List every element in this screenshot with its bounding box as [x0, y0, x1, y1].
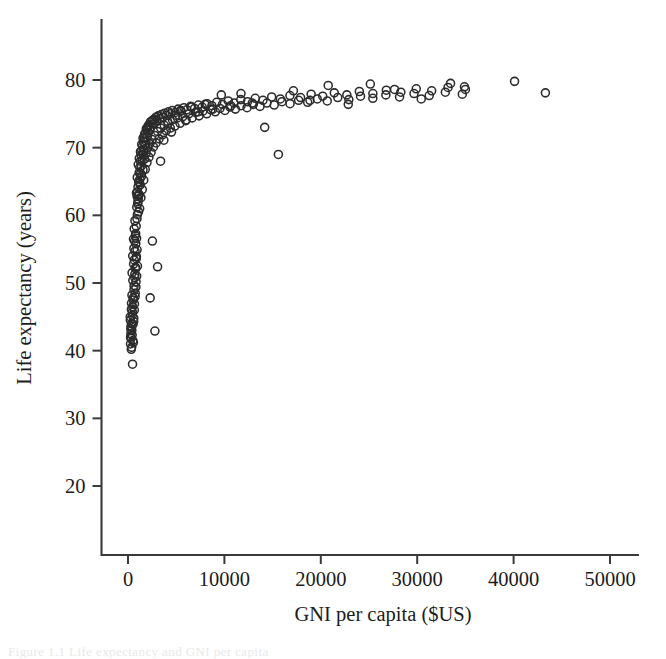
x-tick-label: 0: [123, 568, 133, 590]
x-tick-label: 20000: [295, 568, 346, 590]
x-tick-label: 50000: [584, 568, 635, 590]
data-point: [278, 98, 286, 106]
x-tick-label: 10000: [199, 568, 250, 590]
y-tick-label: 40: [65, 340, 86, 362]
data-point: [324, 81, 332, 89]
y-axis-tick-labels: 20304050607080: [65, 69, 86, 497]
plot-svg: 01000020000300004000050000 2030405060708…: [0, 0, 666, 659]
x-tick-label: 40000: [488, 568, 539, 590]
x-axis-label: GNI per capita ($US): [294, 603, 471, 626]
x-axis-ticks: [128, 555, 610, 564]
data-point: [357, 92, 365, 100]
data-point: [154, 263, 162, 271]
y-axis-label: Life expectancy (years): [13, 191, 36, 385]
data-point: [417, 95, 425, 103]
data-point: [146, 294, 154, 302]
data-point: [160, 136, 168, 144]
data-point: [304, 98, 312, 106]
y-tick-label: 20: [65, 475, 86, 497]
y-tick-label: 70: [65, 137, 86, 159]
data-point: [148, 237, 156, 245]
caption-fragment: Figure 1.1 Life expectancy and GNI per c…: [8, 644, 428, 658]
data-point: [274, 150, 282, 158]
data-point: [286, 100, 294, 108]
data-point: [151, 327, 159, 335]
y-tick-label: 60: [65, 204, 86, 226]
data-point: [129, 360, 137, 368]
data-point: [323, 97, 331, 105]
y-tick-label: 80: [65, 69, 86, 91]
data-point: [541, 89, 549, 97]
data-points: [126, 77, 549, 368]
data-point: [270, 101, 278, 109]
y-tick-label: 50: [65, 272, 86, 294]
y-tick-label: 30: [65, 407, 86, 429]
x-tick-label: 30000: [392, 568, 443, 590]
data-point: [217, 91, 225, 99]
x-axis-tick-labels: 01000020000300004000050000: [123, 568, 636, 590]
data-point: [261, 123, 269, 131]
data-point: [396, 93, 404, 101]
y-axis-ticks: [93, 80, 102, 486]
scatter-figure: 01000020000300004000050000 2030405060708…: [0, 0, 666, 659]
data-point: [511, 77, 519, 85]
data-point: [157, 157, 165, 165]
data-point: [343, 91, 351, 99]
data-point: [344, 100, 352, 108]
data-point: [366, 80, 374, 88]
